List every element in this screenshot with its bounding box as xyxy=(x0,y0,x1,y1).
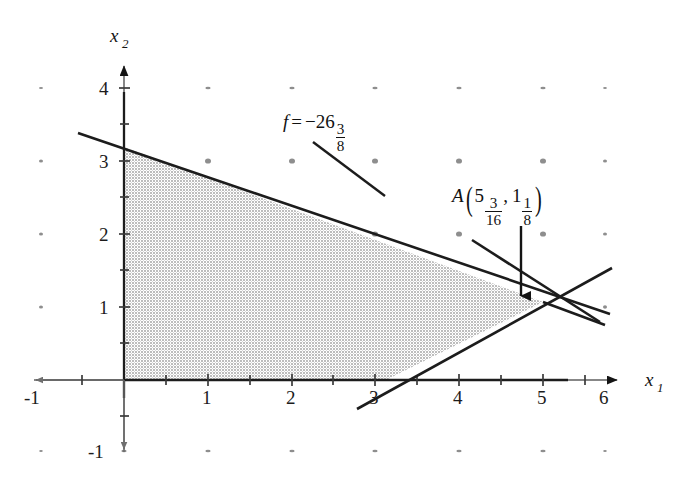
x-tick-label-1: 1 xyxy=(202,387,212,408)
vertex-separator: , xyxy=(503,185,508,206)
objective-whole: 26 xyxy=(316,111,335,132)
x-tick-label-4: 4 xyxy=(453,387,463,408)
vertex-y-fraction: 18 xyxy=(522,195,532,228)
objective-fraction-denominator: 8 xyxy=(336,137,346,154)
x-axis-label-subscript: 1 xyxy=(657,380,664,395)
vertex-y-numerator: 1 xyxy=(522,195,532,211)
feasible-region-shading xyxy=(124,147,543,380)
objective-relation: = xyxy=(291,111,302,132)
y-axis-label: x 2 xyxy=(109,25,129,51)
x-tick-label-5: 5 xyxy=(537,387,547,408)
x-axis-label-symbol: x xyxy=(644,369,654,390)
objective-function-label: f=−2638 xyxy=(283,112,346,154)
objective-fraction-numerator: 3 xyxy=(336,121,346,137)
vertex-point-label: A(5316,118) xyxy=(452,186,544,228)
vertex-point-name: A xyxy=(452,185,464,206)
x-tick-label-3: 3 xyxy=(369,387,379,408)
y-tick-labels: 4 3 2 1 -1 xyxy=(88,78,109,462)
right-paren-glyph: ) xyxy=(535,189,542,209)
x-tick-label-6: 6 xyxy=(599,387,609,408)
y-tick-label-2: 2 xyxy=(99,224,109,245)
y-tick-label-neg1: -1 xyxy=(88,441,104,462)
vertex-x-numerator: 3 xyxy=(489,195,499,211)
objective-fraction: 38 xyxy=(336,121,346,154)
y-axis-label-symbol: x xyxy=(109,25,119,46)
vertex-x-denominator: 16 xyxy=(485,211,502,228)
y-axis-label-subscript: 2 xyxy=(122,36,129,51)
x-axis-label: x 1 xyxy=(644,369,664,395)
y-tick-label-3: 3 xyxy=(99,151,109,172)
objective-sign: − xyxy=(305,111,316,132)
x-tick-label-2: 2 xyxy=(286,387,296,408)
y-tick-label-1: 1 xyxy=(99,297,109,318)
figure-canvas: -1 1 2 3 4 5 6 4 3 2 1 -1 x 1 x 2 f=−263… xyxy=(0,0,690,482)
vertex-x-fraction: 316 xyxy=(485,195,502,228)
x-tick-label-neg1: -1 xyxy=(24,387,40,408)
objective-symbol: f xyxy=(283,111,288,132)
linear-programming-figure: -1 1 2 3 4 5 6 4 3 2 1 -1 x 1 x 2 xyxy=(0,0,690,482)
vertex-y-whole: 1 xyxy=(512,185,522,206)
x-tick-labels: -1 1 2 3 4 5 6 xyxy=(24,387,609,408)
y-tick-label-4: 4 xyxy=(99,78,109,99)
left-paren-glyph: ( xyxy=(466,189,473,209)
vertex-y-denominator: 8 xyxy=(522,211,532,228)
vertex-x-whole: 5 xyxy=(475,185,485,206)
